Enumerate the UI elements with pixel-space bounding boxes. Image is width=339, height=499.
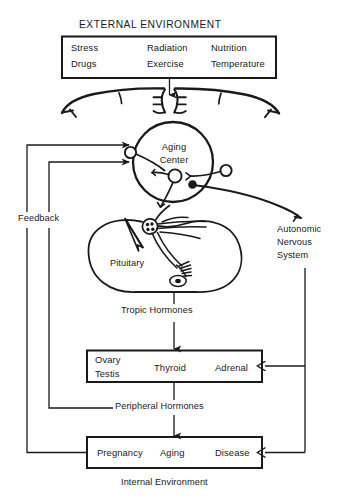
endocrine-item-testis: Testis [95,368,120,379]
endocrine-item-ovary: Ovary [95,354,121,365]
external-item-radiation: Radiation [147,42,188,53]
cerebral-cortex-outline [62,88,279,117]
internal-item-pregnancy: Pregnancy [97,447,143,458]
external-item-temperature: Temperature [211,58,265,69]
internal-item-aging: Aging [160,447,184,458]
feedback-label: Feedback [18,213,59,223]
figure-caption: Internal Environment [121,477,208,487]
external-item-stress: Stress [71,42,98,53]
autonomic-label-line1: Autonomic [277,224,321,236]
page-title: EXTERNAL ENVIRONMENT [79,19,222,30]
aging-center-label-line2: Center [152,154,196,166]
autonomic-label-line3: System [277,250,308,262]
endocrine-item-thyroid: Thyroid [154,362,186,373]
pituitary-label: Pituitary [110,258,144,268]
endocrine-item-adrenal: Adrenal [215,362,248,373]
external-item-drugs: Drugs [71,58,97,69]
internal-item-disease: Disease [215,447,250,458]
aging-center-label-line1: Aging [152,141,196,153]
peripheral-hormones-label: Peripheral Hormones [115,401,204,411]
external-item-nutrition: Nutrition [211,42,247,53]
tropic-hormones-label: Tropic Hormones [121,305,193,315]
external-item-exercise: Exercise [147,58,184,69]
aging-center-diagram: EXTERNAL ENVIRONMENT Stress Drugs Radiat… [0,0,339,499]
autonomic-label-line2: Nervous [277,237,312,249]
